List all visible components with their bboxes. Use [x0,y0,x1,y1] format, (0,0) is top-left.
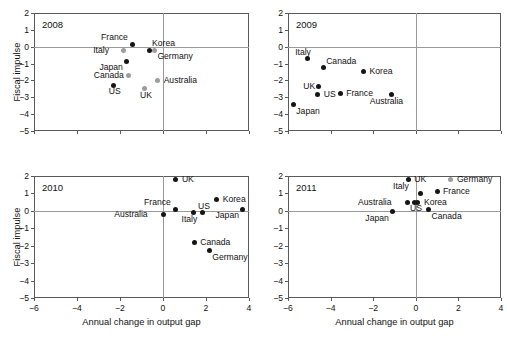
figure-root: 2008210−1−2−3−4−5FranceKoreaGermanyItaly… [0,0,507,340]
x-tickmark [120,131,121,134]
data-point-label: US [109,87,121,96]
data-point-label: Australia [370,97,403,106]
x-tickmark [501,131,502,134]
y-tick-label: −2 [262,75,283,85]
y-tickmark [31,47,34,48]
data-point-label: Germany [212,253,247,262]
y-tickmark [31,64,34,65]
y-tick-label: −3 [262,258,283,268]
data-point [214,197,219,202]
plot-frame [34,13,249,131]
data-point-label: France [144,198,171,207]
data-point [240,207,245,212]
x-tickmark [501,298,502,301]
x-tick-label: 2 [194,303,218,313]
data-point-label: Korea [370,67,393,76]
y-tickmark [285,263,288,264]
y-tickmark [285,281,288,282]
data-point-label: Australia [114,210,147,219]
x-tick-label: −4 [65,303,89,313]
data-point-label: Japan [216,211,239,220]
x-tickmark [77,298,78,301]
data-point-label: Canada [432,212,462,221]
zero-vertical-line [416,13,417,131]
data-point-label: France [443,187,470,196]
y-tickmark [31,211,34,212]
data-point-label: Canada [94,71,124,80]
data-point-label: UK [140,91,152,100]
y-tickmark [285,30,288,31]
y-tickmark [285,13,288,14]
y-tickmark [31,193,34,194]
y-tick-label: −3 [262,92,283,102]
y-tick-label: 0 [262,42,283,52]
y-tickmark [285,47,288,48]
x-tickmark [331,298,332,301]
data-point-label: Canada [326,57,356,66]
x-tick-label: −2 [108,303,132,313]
y-axis-title: Fiscal impulse [12,13,22,131]
x-tickmark [120,298,121,301]
data-point-label: Japan [296,107,319,116]
data-point [418,191,423,196]
x-tickmark [416,298,417,301]
x-tickmark [458,131,459,134]
x-tick-label: −2 [361,303,385,313]
y-tickmark [31,281,34,282]
x-tickmark [206,131,207,134]
y-tickmark [285,80,288,81]
data-point [321,65,326,70]
x-tickmark [331,131,332,134]
y-tickmark [31,228,34,229]
data-point-label: Italy [93,46,109,55]
data-point-label: UK [303,82,315,91]
x-tickmark [34,298,35,301]
panel-year-label: 2010 [42,182,63,193]
y-tick-label: −5 [262,126,283,136]
data-point-label: US [198,202,210,211]
x-tickmark [163,298,164,301]
data-point [126,73,131,78]
y-tick-label: −4 [262,109,283,119]
x-tick-label: 0 [151,303,175,313]
y-tickmark [285,228,288,229]
data-point-label: France [101,33,128,42]
y-tickmark [285,211,288,212]
y-tickmark [31,246,34,247]
y-tickmark [285,97,288,98]
zero-vertical-line [163,13,164,131]
y-axis-title: Fiscal impulse [12,176,22,298]
x-tickmark [163,131,164,134]
x-tickmark [249,131,250,134]
data-point-label: Korea [223,195,246,204]
x-tick-label: −4 [319,303,343,313]
x-tickmark [249,298,250,301]
data-point [435,189,440,194]
y-tick-label: 2 [262,8,283,18]
x-tickmark [458,298,459,301]
y-tickmark [31,97,34,98]
y-tickmark [31,80,34,81]
data-point-label: Italy [182,215,198,224]
data-point-label: Korea [152,39,175,48]
y-tickmark [31,176,34,177]
data-point-label: Australia [358,198,391,207]
zero-vertical-line [416,176,417,298]
zero-vertical-line [163,176,164,298]
x-tickmark [77,131,78,134]
x-axis-title: Annual change in output gap [288,317,501,327]
x-tickmark [34,131,35,134]
data-point-label: UK [182,175,194,184]
y-tick-label: 1 [262,25,283,35]
y-tickmark [285,193,288,194]
x-tick-label: −6 [22,303,46,313]
zero-horizontal-line [288,47,501,48]
x-tickmark [206,298,207,301]
x-tick-label: −6 [276,303,300,313]
panel-year-label: 2008 [42,19,63,30]
data-point [124,59,129,64]
y-tickmark [31,114,34,115]
x-tick-label: 0 [404,303,428,313]
data-point-label: Korea [424,198,447,207]
x-axis-title: Annual change in output gap [34,317,249,327]
